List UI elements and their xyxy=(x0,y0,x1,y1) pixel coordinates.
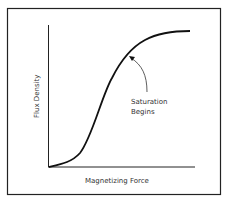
annotation-line1: Saturation xyxy=(131,98,168,106)
y-axis-label: Flux Density xyxy=(33,75,41,118)
x-axis-label: Magnetizing Force xyxy=(85,177,149,185)
magnetization-curve xyxy=(49,31,190,167)
annotation-line2: Begins xyxy=(131,108,155,116)
bh-curve-diagram: Saturation Begins Magnetizing Force Flux… xyxy=(0,0,232,203)
annotation-arrow xyxy=(131,58,147,92)
